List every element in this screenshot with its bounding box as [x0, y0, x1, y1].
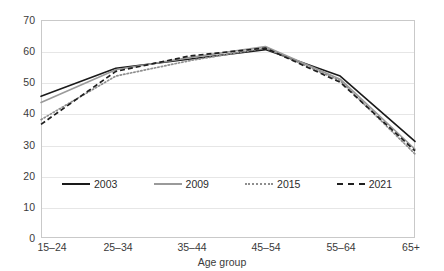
series-line-2015 [41, 48, 415, 154]
x-tick-label: 45–54 [231, 242, 301, 253]
legend-label: 2021 [369, 178, 392, 190]
legend-item-2009: 2009 [154, 178, 209, 190]
legend-swatch-icon [62, 183, 90, 185]
legend-item-2003: 2003 [62, 178, 117, 190]
legend-swatch-icon [245, 183, 273, 185]
x-axis-title: Age group [0, 256, 444, 268]
legend-item-2015: 2015 [245, 178, 300, 190]
x-tick-label: 65+ [383, 242, 439, 253]
legend-label: 2009 [186, 178, 209, 190]
legend-swatch-icon [154, 183, 182, 185]
series-lines [0, 0, 444, 271]
series-line-2009 [41, 46, 415, 149]
x-tick-label: 55–64 [306, 242, 376, 253]
legend-swatch-icon [337, 183, 365, 185]
x-tick-label: 25–34 [83, 242, 153, 253]
legend-label: 2003 [94, 178, 117, 190]
chart-figure: 70 60 50 40 30 20 10 0 2003 2009 2015 20… [0, 0, 444, 271]
series-line-2003 [41, 50, 415, 142]
x-tick-label: 35–44 [157, 242, 227, 253]
legend-label: 2015 [277, 178, 300, 190]
chart-legend: 2003 2009 2015 2021 [62, 176, 392, 192]
legend-item-2021: 2021 [337, 178, 392, 190]
x-tick-label: 15–24 [17, 242, 87, 253]
